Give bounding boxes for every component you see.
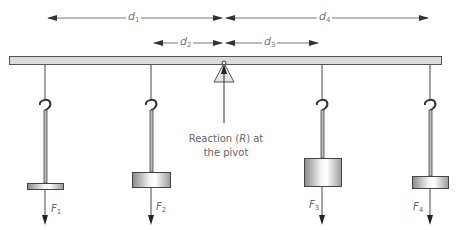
pivot-reaction-label: Reaction (R) at the pivot [181, 132, 271, 160]
label-f3: F3 [309, 199, 319, 214]
label-f1: F1 [51, 203, 61, 218]
diagram-canvas [0, 0, 461, 230]
pivot-reaction-line2: the pivot [181, 146, 271, 160]
label-d3: d3 [262, 36, 277, 51]
force-arrow-f3 [319, 215, 325, 225]
pivot-reaction-line1: Reaction (R) at [181, 132, 271, 146]
weight-4 [413, 177, 449, 189]
label-f2: F2 [156, 201, 166, 216]
pivot-fulcrum [214, 61, 234, 123]
weight-2 [133, 173, 171, 188]
lever-diagram: d1 d2 d3 d4 F1 F2 F3 F4 Reaction (R) at … [0, 0, 461, 230]
label-f4: F4 [413, 201, 423, 216]
label-d2: d2 [178, 36, 193, 51]
force-arrow-f4 [427, 215, 433, 225]
force-arrow-f1 [42, 215, 48, 225]
weight-3 [305, 159, 342, 187]
weight-1 [28, 184, 64, 190]
label-d4: d4 [317, 11, 332, 26]
label-d1: d1 [126, 11, 141, 26]
force-arrow-f2 [148, 215, 154, 225]
hanger-weight-1 [28, 65, 64, 225]
